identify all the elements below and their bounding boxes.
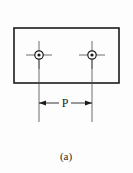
- dimension-arrowhead-left: [39, 101, 46, 106]
- engineering-drawing: P (a): [0, 0, 133, 173]
- figure-container: P (a): [0, 0, 133, 173]
- pitch-dimension-label: P: [62, 96, 69, 110]
- hole-left-inner-circle: [37, 53, 40, 56]
- figure-caption: (a): [60, 150, 73, 163]
- dimension-arrowhead-right: [85, 101, 92, 106]
- rectangular-plate-outline: [14, 28, 119, 83]
- hole-right-inner-circle: [90, 53, 93, 56]
